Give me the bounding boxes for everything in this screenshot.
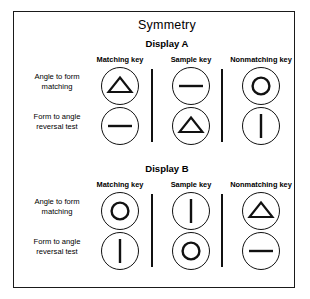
vertical-line-icon xyxy=(172,192,210,230)
vertical-line-icon xyxy=(242,107,280,145)
circle-icon xyxy=(242,67,280,105)
key-cell-nonmatching[interactable] xyxy=(242,107,280,145)
column-header-sample-key: Sample key xyxy=(158,55,224,64)
horizontal-line-icon xyxy=(101,107,139,145)
key-cell-matching[interactable] xyxy=(101,232,139,270)
key-cell-matching[interactable] xyxy=(101,67,139,105)
key-cell-matching[interactable] xyxy=(101,107,139,145)
row-label-line1: Angle to form xyxy=(20,72,94,82)
key-cell-sample[interactable] xyxy=(172,107,210,145)
row-label-line2: matching xyxy=(20,207,94,217)
key-cell-nonmatching[interactable] xyxy=(242,192,280,230)
horizontal-line-icon xyxy=(242,232,280,270)
display-b-heading: Display B xyxy=(14,163,294,174)
row-label-line2: reversal test xyxy=(20,247,94,257)
horizontal-line-icon xyxy=(172,67,210,105)
row-label-line1: Angle to form xyxy=(20,197,94,207)
key-cell-nonmatching[interactable] xyxy=(242,67,280,105)
circle-icon xyxy=(172,232,210,270)
row-label-line2: matching xyxy=(20,82,94,92)
triangle-icon xyxy=(242,192,280,230)
display-a-column-headers: Matching key Sample key Nonmatching key xyxy=(14,55,294,67)
column-header-matching-key: Matching key xyxy=(86,180,154,189)
circle-icon xyxy=(101,192,139,230)
row-label-form-to-angle-reversal-test: Form to angle reversal test xyxy=(20,112,94,131)
row-label-form-to-angle-reversal-test: Form to angle reversal test xyxy=(20,237,94,256)
table-row: Form to angle reversal test xyxy=(14,107,294,145)
triangle-icon xyxy=(101,67,139,105)
column-header-nonmatching-key: Nonmatching key xyxy=(224,180,298,189)
symmetry-figure: Symmetry Display A Matching key Sample k… xyxy=(13,11,295,288)
vertical-line-icon xyxy=(101,232,139,270)
table-row: Angle to form matching xyxy=(14,192,294,230)
triangle-icon xyxy=(172,107,210,145)
row-label-line2: reversal test xyxy=(20,122,94,132)
display-b-column-headers: Matching key Sample key Nonmatching key xyxy=(14,180,294,192)
key-cell-sample[interactable] xyxy=(172,67,210,105)
key-cell-nonmatching[interactable] xyxy=(242,232,280,270)
display-a-heading: Display A xyxy=(14,38,294,49)
table-row: Form to angle reversal test xyxy=(14,232,294,270)
row-label-angle-to-form-matching: Angle to form matching xyxy=(20,72,94,91)
figure-title: Symmetry xyxy=(14,18,294,32)
key-cell-matching[interactable] xyxy=(101,192,139,230)
row-label-angle-to-form-matching: Angle to form matching xyxy=(20,197,94,216)
column-header-matching-key: Matching key xyxy=(86,55,154,64)
row-label-line1: Form to angle xyxy=(20,112,94,122)
table-row: Angle to form matching xyxy=(14,67,294,105)
column-header-nonmatching-key: Nonmatching key xyxy=(224,55,298,64)
key-cell-sample[interactable] xyxy=(172,192,210,230)
key-cell-sample[interactable] xyxy=(172,232,210,270)
column-header-sample-key: Sample key xyxy=(158,180,224,189)
row-label-line1: Form to angle xyxy=(20,237,94,247)
